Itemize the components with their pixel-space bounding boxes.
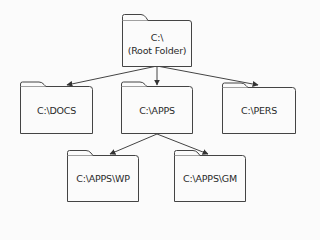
folder-root-path: C:\ [151,31,163,44]
folder-root: C:\ (Root Folder) [122,22,192,66]
edge-root-pers [157,66,258,85]
folder-wp-path: C:\APPS\WP [76,172,129,185]
folder-pers-path: C:\PERS [241,104,277,117]
folder-pers: C:\PERS [222,88,296,133]
edge-apps-wp [110,134,157,154]
folder-wp: C:\APPS\WP [67,156,139,201]
folder-apps-path: C:\APPS [139,104,175,117]
folder-apps: C:\APPS [121,87,193,133]
folder-docs: C:\DOCS [20,87,93,133]
folder-gm-path: C:\APPS\GM [183,172,237,185]
edge-root-docs [67,66,157,85]
folder-gm: C:\APPS\GM [174,156,246,201]
folder-root-caption: (Root Folder) [128,44,187,57]
folder-docs-path: C:\DOCS [37,104,76,117]
